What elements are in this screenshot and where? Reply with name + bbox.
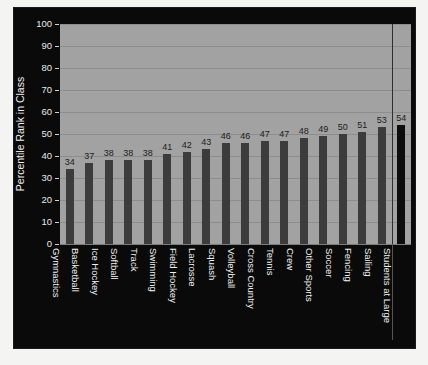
x-axis-label: Field Hockey	[166, 248, 180, 336]
bar-value-label: 38	[99, 148, 119, 158]
bar-value-label: 42	[177, 140, 197, 150]
bar-value-label: 34	[60, 157, 80, 167]
bar	[183, 152, 191, 244]
x-axis-label: Soccer	[322, 248, 336, 336]
x-axis-label-slot: Students at Large	[394, 248, 408, 336]
y-axis-tick-label: 100	[36, 19, 52, 29]
y-axis-tick-mark	[55, 222, 59, 223]
y-axis-tick-label: 70	[41, 85, 52, 95]
y-axis-tick-mark	[55, 90, 59, 91]
bar	[144, 160, 152, 244]
y-axis-tick-label: 50	[41, 129, 52, 139]
bar	[397, 125, 405, 244]
bar	[300, 138, 308, 244]
page-background: Percentile Rank in Class 010203040506070…	[0, 0, 428, 365]
bar	[105, 160, 113, 244]
y-axis-tick-mark	[55, 178, 59, 179]
x-axis-label: Tennis	[263, 248, 277, 336]
bar	[202, 149, 210, 244]
y-axis-tick-label: 20	[41, 195, 52, 205]
x-axis-label: Cross Country	[244, 248, 258, 336]
y-axis-tick-label: 10	[41, 217, 52, 227]
x-axis-label: Lacrosse	[185, 248, 199, 336]
y-axis-tick-mark	[55, 200, 59, 201]
category-divider-extension	[392, 244, 393, 340]
gridline	[60, 244, 411, 245]
bar-series: 343738383841424346464747484950515354	[60, 24, 411, 244]
y-axis-tick-mark	[55, 244, 59, 245]
bar	[339, 134, 347, 244]
x-axis-label: Swimming	[146, 248, 160, 336]
x-axis-label: Volleyball	[224, 248, 238, 336]
bar-value-label: 38	[118, 148, 138, 158]
bar-value-label: 38	[138, 148, 158, 158]
x-axis-labels: GymnasticsBasketballIce HockeySoftballTr…	[60, 248, 411, 344]
x-axis-label: Track	[127, 248, 141, 336]
y-axis-tick-label: 80	[41, 63, 52, 73]
bar-value-label: 46	[235, 131, 255, 141]
bar-value-label: 53	[372, 115, 392, 125]
plot-area: 343738383841424346464747484950515354	[60, 24, 411, 244]
bar-value-label: 47	[255, 129, 275, 139]
x-axis-label: Fencing	[341, 248, 355, 336]
y-axis-tick-label: 60	[41, 107, 52, 117]
bar	[222, 143, 230, 244]
x-axis-label: Gymnastics	[49, 248, 63, 336]
y-axis-tick-label: 30	[41, 173, 52, 183]
y-axis-tick-mark	[55, 46, 59, 47]
bar	[280, 141, 288, 244]
chart-figure: Percentile Rank in Class 010203040506070…	[14, 8, 415, 348]
y-axis-title-text: Percentile Rank in Class	[12, 24, 28, 244]
bar-value-label: 50	[333, 122, 353, 132]
category-divider	[392, 24, 393, 244]
y-axis-tick-mark	[55, 134, 59, 135]
bar-value-label: 49	[313, 124, 333, 134]
bar	[85, 163, 93, 244]
bar-value-label: 46	[216, 131, 236, 141]
x-axis-label: Sailing	[361, 248, 375, 336]
y-axis-tick-mark	[55, 24, 59, 25]
x-axis-label: Softball	[107, 248, 121, 336]
bar	[241, 143, 249, 244]
bar-value-label: 41	[157, 142, 177, 152]
x-axis-label: Basketball	[68, 248, 82, 336]
bar	[358, 132, 366, 244]
bar	[124, 160, 132, 244]
bar-value-label: 54	[391, 113, 411, 123]
bar	[163, 154, 171, 244]
y-axis-tick-mark	[55, 112, 59, 113]
y-axis-tick-mark	[55, 156, 59, 157]
bar-value-label: 43	[196, 137, 216, 147]
bar-value-label: 48	[294, 126, 314, 136]
y-axis-tick-label: 90	[41, 41, 52, 51]
x-axis-label: Squash	[205, 248, 219, 336]
x-axis-label: Ice Hockey	[88, 248, 102, 336]
bar	[261, 141, 269, 244]
bar	[319, 136, 327, 244]
x-axis-label: Other Sports	[302, 248, 316, 336]
bar-value-label: 47	[274, 129, 294, 139]
bar	[66, 169, 74, 244]
bar	[378, 127, 386, 244]
bar-value-label: 37	[79, 151, 99, 161]
bar-value-label: 51	[352, 120, 372, 130]
y-axis-tick-label: 40	[41, 151, 52, 161]
y-axis-tick-mark	[55, 68, 59, 69]
x-axis-label: Crew	[283, 248, 297, 336]
